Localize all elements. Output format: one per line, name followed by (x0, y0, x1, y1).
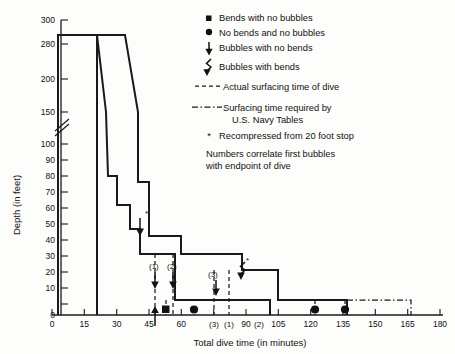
legend-item-label: Actual surfacing time of dive (223, 82, 339, 92)
x-tick-label: 90 (241, 319, 251, 329)
x-tick-label: 45 (144, 319, 154, 329)
legend-square-icon (206, 16, 212, 22)
legend-arrow-down-icon (205, 42, 212, 56)
legend-item-label: Recompressed from 20 foot stop (219, 131, 354, 141)
y-tick-label: 300 (41, 15, 55, 25)
y-tick-label: 30 (46, 251, 56, 261)
x-tick-label: 15 (80, 319, 90, 329)
y-tick-label: 100 (41, 139, 55, 149)
y-tick-label: 90 (46, 155, 56, 165)
y-tick-label: 200 (41, 74, 55, 84)
y-axis-tick-labels: 300 280 200 150 100 90 80 70 60 50 40 30… (41, 15, 55, 320)
navy-tables-line (347, 300, 411, 315)
legend-item-label: No bends and no bubbles (219, 28, 325, 38)
x-axis-tick-labels: 0 15 30 45 60 90 105 120 135 150 165 180 (50, 319, 448, 329)
x-axis-annotation: (2) (254, 320, 264, 329)
x-tick-label: 150 (368, 319, 382, 329)
marker-circle (311, 305, 319, 313)
legend-note-line-1: Numbers correlate first bubbles (206, 149, 336, 159)
legend-item-label: Bends with no bubbles (219, 13, 313, 23)
x-axis-annotations: (3) (1) (2) (209, 320, 264, 329)
chart-legend: Bends with no bubbles No bends and no bu… (192, 13, 354, 171)
legend-item-label: Bubbles with bends (219, 62, 300, 72)
x-tick-label: 60 (177, 319, 187, 329)
x-axis-ticks (52, 309, 440, 315)
y-tick-label: 80 (46, 171, 56, 181)
dive-profile-series-b (97, 35, 347, 315)
event-arrow-star-1: * (136, 209, 148, 236)
x-tick-label: 30 (112, 319, 122, 329)
x-tick-label: 180 (433, 319, 447, 329)
x-tick-label: 0 (50, 319, 55, 329)
event-label-2: (2) (167, 262, 177, 271)
y-tick-label: 150 (41, 107, 55, 117)
x-axis-title: Total dive time (in minutes) (194, 337, 307, 348)
dive-profile-chart: 300 280 200 150 100 90 80 70 60 50 40 30… (0, 0, 455, 354)
event-label-1: (1) (149, 262, 159, 271)
x-tick-label: 105 (271, 319, 285, 329)
y-tick-label: 10 (46, 283, 56, 293)
legend-note-line-2: with endpoint of dive (205, 161, 291, 171)
marker-circle (190, 305, 198, 313)
y-tick-label: 40 (46, 235, 56, 245)
x-axis-annotation: (3) (209, 320, 219, 329)
legend-bolt-icon (203, 59, 211, 76)
legend-circle-icon (206, 29, 212, 35)
y-axis-title: Depth (in feet) (11, 175, 22, 235)
event-label-3: (3) (208, 270, 218, 279)
legend-item-label: Bubbles with no bends (219, 43, 313, 53)
y-tick-label: 20 (46, 267, 56, 277)
y-axis-ticks (61, 20, 68, 304)
asterisk-icon: * (145, 209, 148, 218)
event-bolt-star: * (237, 256, 249, 280)
y-tick-label: 70 (46, 187, 56, 197)
x-axis-annotation: (1) (224, 320, 234, 329)
legend-item-label: U.S. Navy Tables (232, 115, 303, 125)
y-tick-label: 60 (46, 203, 56, 213)
marker-circle (341, 305, 349, 313)
x-tick-label: 120 (304, 319, 318, 329)
x-tick-label: 135 (336, 319, 350, 329)
marker-square (162, 306, 170, 314)
chart-root: 300 280 200 150 100 90 80 70 60 50 40 30… (0, 0, 455, 354)
x-tick-label: 165 (401, 319, 415, 329)
event-arrow-1: (1) (149, 262, 159, 289)
asterisk-icon: * (246, 256, 249, 265)
y-tick-label: 280 (41, 39, 55, 49)
legend-asterisk-icon: * (207, 131, 211, 141)
legend-item-label: Surfacing time required by (223, 103, 332, 113)
y-tick-label: 50 (46, 219, 56, 229)
